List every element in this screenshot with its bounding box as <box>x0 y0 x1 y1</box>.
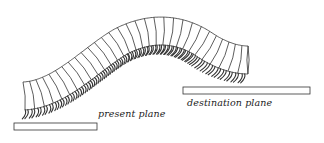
destination-plane-label: destination plane <box>187 97 272 108</box>
robot-bridging-diagram: present plane destination plane <box>0 0 324 143</box>
diagram-canvas <box>0 0 324 143</box>
present-plane-surface <box>14 123 97 130</box>
destination-plane-surface <box>183 87 310 94</box>
present-plane-label: present plane <box>98 108 166 119</box>
